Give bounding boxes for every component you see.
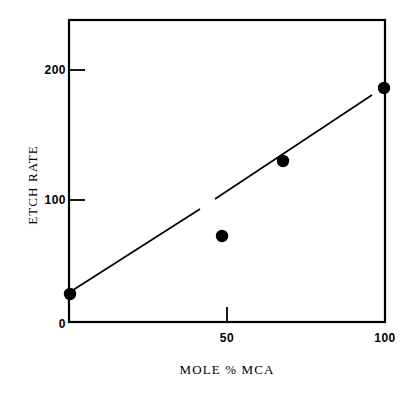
y-tick-label-200: 200 bbox=[24, 63, 66, 77]
x-tick-label-100: 100 bbox=[374, 331, 396, 345]
data-point bbox=[64, 288, 76, 300]
chart-figure: 200 100 0 50 100 MOLE % MCA ETCH RATE bbox=[0, 0, 417, 393]
x-axis-title: MOLE % MCA bbox=[180, 362, 275, 378]
x-tick-label-50: 50 bbox=[220, 331, 234, 345]
data-point bbox=[378, 82, 390, 94]
trend-line-segment-upper bbox=[215, 95, 372, 199]
y-axis-title: ETCH RATE bbox=[25, 145, 41, 225]
plot-frame bbox=[69, 20, 385, 322]
y-tick-label-0: 0 bbox=[24, 317, 66, 331]
data-point bbox=[277, 155, 289, 167]
trend-line-segment-lower bbox=[70, 209, 200, 292]
data-point bbox=[216, 230, 228, 242]
